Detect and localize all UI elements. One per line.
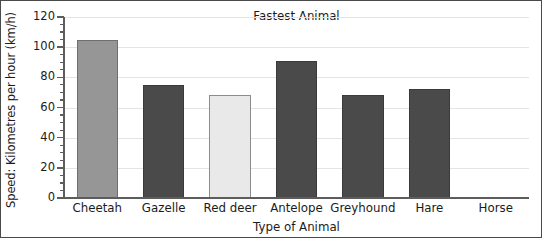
plot-area: 020406080100120 [64,17,529,198]
y-tick-label: 0 [21,192,55,204]
bar [276,61,317,198]
y-tick-label: 40 [21,132,55,144]
y-tick-label: 20 [21,162,55,174]
x-tick-label: Greyhound [330,202,396,215]
x-tick-label: Gazelle [130,202,196,215]
x-axis-line [63,197,529,199]
y-axis-title: Speed: Kilometres per hour (km/h) [3,12,19,208]
y-tick-label: 120 [21,11,55,23]
x-tick-label: Antelope [263,202,329,215]
x-tick-label: Hare [396,202,462,215]
bar [209,95,250,198]
x-tick-label: Horse [463,202,529,215]
x-axis-title: Type of Animal [64,220,529,234]
bar-chart-figure: Speed: Kilometres per hour (km/h) Fastes… [0,0,542,238]
bar [143,85,184,198]
y-tick-label: 100 [21,41,55,53]
bar [342,95,383,198]
y-axis-line [63,17,65,199]
gridline [64,47,529,48]
bar [409,89,450,198]
bar [77,40,118,198]
plot-inner: 020406080100120 [64,17,529,198]
x-tick-label: Red deer [197,202,263,215]
y-tick-label: 60 [21,102,55,114]
y-tick-label: 80 [21,72,55,84]
gridline [64,17,529,18]
x-tick-label: Cheetah [64,202,130,215]
